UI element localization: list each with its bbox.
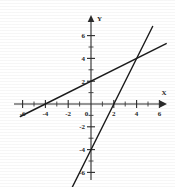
y-tick-label: 6 bbox=[82, 32, 86, 40]
x-tick-label: -2 bbox=[65, 110, 71, 118]
x-tick-label: -4 bbox=[42, 110, 48, 118]
y-tick-label: -6 bbox=[79, 169, 85, 177]
x-tick-label: -6 bbox=[20, 110, 26, 118]
y-tick-label: -2 bbox=[79, 123, 85, 131]
y-axis-label: Y bbox=[97, 15, 102, 23]
x-tick-label: 2 bbox=[112, 110, 116, 118]
coordinate-graph: -6 -4 -2 0 2 4 6 6 4 2 -2 -4 -6 X Y bbox=[0, 0, 175, 187]
y-tick-label: 4 bbox=[82, 55, 86, 63]
y-tick-labels: 6 4 2 -2 -4 -6 bbox=[79, 32, 85, 177]
y-tick-label: 2 bbox=[82, 78, 86, 86]
y-axis-arrow-icon bbox=[88, 15, 95, 22]
y-tick-label: -4 bbox=[79, 146, 85, 154]
x-axis-label: X bbox=[161, 89, 166, 97]
axes-group bbox=[14, 15, 167, 180]
x-axis-arrow-icon bbox=[160, 101, 167, 108]
origin-label: 0 bbox=[85, 110, 89, 118]
data-line-shallow bbox=[20, 44, 166, 117]
plot-svg: -6 -4 -2 0 2 4 6 6 4 2 -2 -4 -6 X Y bbox=[0, 0, 175, 187]
data-line-steep bbox=[67, 27, 153, 188]
x-tick-label: 6 bbox=[158, 110, 162, 118]
x-tick-label: 4 bbox=[135, 110, 139, 118]
